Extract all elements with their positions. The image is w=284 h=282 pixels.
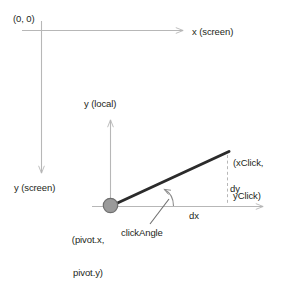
pivot-point-label-line2: pivot.y) [56, 267, 120, 278]
click-angle-leader-line [150, 199, 169, 224]
pivot-point-marker [103, 198, 117, 212]
y-local-axis-label: y (local) [84, 98, 116, 109]
x-screen-axis-label: x (screen) [192, 26, 233, 37]
pivot-point-label-line1: (pivot.x, [56, 234, 120, 245]
screen-axes [22, 21, 183, 173]
y-screen-axis-label: y (screen) [14, 182, 55, 193]
click-point-label: (xClick, yClick) [233, 135, 263, 223]
dx-label: dx [189, 210, 199, 221]
origin-label: (0, 0) [13, 13, 35, 24]
click-point-label-line1: (xClick, [233, 157, 263, 168]
click-angle-label: clickAngle [121, 227, 163, 238]
dy-label: dy [230, 183, 240, 194]
pivot-point-label: (pivot.x, pivot.y) [56, 212, 120, 282]
click-vector-line [111, 152, 229, 207]
